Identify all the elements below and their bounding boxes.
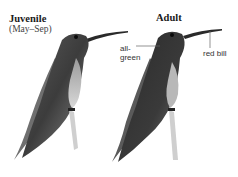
hummingbird-illustration: Juvenile (May–Sep) Adult all-green red b… [0, 0, 238, 177]
juvenile-title: Juvenile [9, 13, 46, 24]
adult-feet [168, 108, 175, 111]
adult-legs [169, 110, 178, 160]
juvenile-bird [14, 31, 128, 160]
annotation-red-bill: red bill [203, 49, 227, 58]
juvenile-eye [74, 35, 78, 39]
juvenile-bill [86, 31, 128, 42]
adult-eye [170, 33, 174, 37]
annotation-all-green: all-green [120, 44, 150, 62]
juvenile-subtitle: (May–Sep) [9, 24, 52, 34]
adult-bill [183, 29, 222, 39]
juvenile-feet [68, 108, 75, 111]
adult-title: Adult [156, 12, 182, 23]
juvenile-legs [69, 110, 78, 150]
